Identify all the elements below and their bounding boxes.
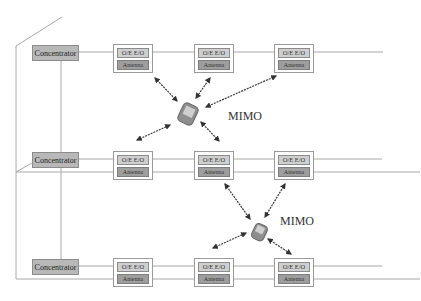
concentrator-row-2: Concentrator bbox=[32, 152, 79, 168]
oe-eo-converter: O/E E/O bbox=[117, 155, 149, 165]
mimo-label-1: MIMO bbox=[228, 109, 262, 124]
remote-unit-r1-3: O/E E/O Antenna bbox=[274, 44, 314, 73]
remote-unit-r2-1: O/E E/O Antenna bbox=[113, 151, 153, 180]
oe-eo-converter: O/E E/O bbox=[198, 262, 230, 272]
antenna-block: Antenna bbox=[198, 60, 230, 70]
antenna-block: Antenna bbox=[278, 167, 310, 177]
oe-eo-converter: O/E E/O bbox=[117, 262, 149, 272]
antenna-block: Antenna bbox=[198, 274, 230, 284]
mobile-phone-icon bbox=[250, 222, 269, 242]
remote-unit-r3-3: O/E E/O Antenna bbox=[274, 258, 314, 287]
remote-unit-r3-1: O/E E/O Antenna bbox=[113, 258, 153, 287]
antenna-block: Antenna bbox=[117, 167, 149, 177]
antenna-block: Antenna bbox=[198, 167, 230, 177]
oe-eo-converter: O/E E/O bbox=[198, 155, 230, 165]
mimo-label-2: MIMO bbox=[280, 214, 314, 229]
concentrator-row-1: Concentrator bbox=[32, 45, 79, 61]
oe-eo-converter: O/E E/O bbox=[278, 155, 310, 165]
remote-unit-r2-2: O/E E/O Antenna bbox=[194, 151, 234, 180]
oe-eo-converter: O/E E/O bbox=[278, 262, 310, 272]
oe-eo-converter: O/E E/O bbox=[198, 48, 230, 58]
antenna-block: Antenna bbox=[117, 274, 149, 284]
antenna-block: Antenna bbox=[117, 60, 149, 70]
oe-eo-converter: O/E E/O bbox=[278, 48, 310, 58]
concentrator-row-3: Concentrator bbox=[32, 259, 79, 275]
remote-unit-r2-3: O/E E/O Antenna bbox=[274, 151, 314, 180]
diagram-canvas: Concentrator O/E E/O Antenna O/E E/O Ant… bbox=[0, 0, 421, 301]
mobile-phone-icon bbox=[177, 102, 200, 127]
oe-eo-converter: O/E E/O bbox=[117, 48, 149, 58]
remote-unit-r1-2: O/E E/O Antenna bbox=[194, 44, 234, 73]
antenna-block: Antenna bbox=[278, 60, 310, 70]
remote-unit-r1-1: O/E E/O Antenna bbox=[113, 44, 153, 73]
antenna-block: Antenna bbox=[278, 274, 310, 284]
remote-unit-r3-2: O/E E/O Antenna bbox=[194, 258, 234, 287]
